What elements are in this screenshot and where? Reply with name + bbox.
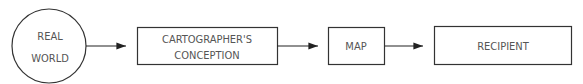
node-cartographers-conception: CARTOGRAPHER'S CONCEPTION <box>138 28 278 65</box>
node-recipient: RECIPIENT <box>435 27 572 65</box>
node-real-world: REAL WORLD <box>12 9 86 83</box>
node-label: REAL <box>37 30 63 43</box>
node-label: CONCEPTION <box>174 49 239 62</box>
node-label: WORLD <box>31 52 69 65</box>
node-label: CARTOGRAPHER'S <box>162 33 252 46</box>
flow-diagram: REAL WORLD CARTOGRAPHER'S CONCEPTION MAP… <box>0 0 583 84</box>
node-map: MAP <box>329 28 385 65</box>
node-label: MAP <box>345 40 366 53</box>
node-label: RECIPIENT <box>477 40 529 53</box>
